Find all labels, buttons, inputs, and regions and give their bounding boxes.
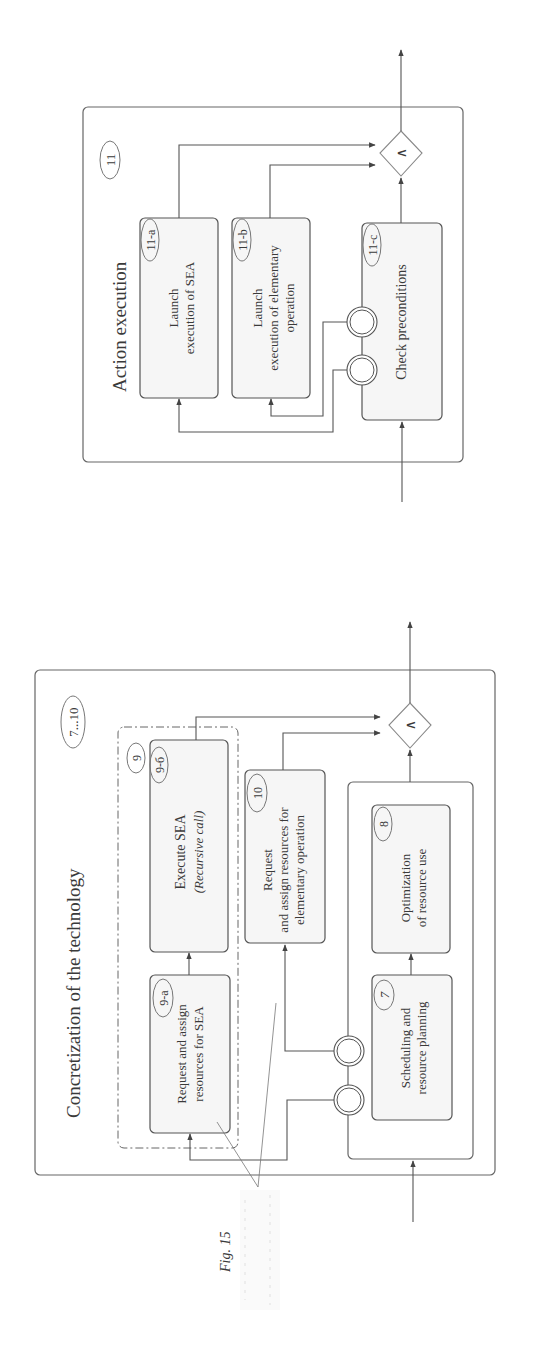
id-badge: 7...10 xyxy=(61,696,85,748)
block-9b[interactable]: 9-б Execute SEA (Recursive call) xyxy=(150,740,228,952)
group-badge: 9 xyxy=(130,755,144,761)
block-id: 7 xyxy=(377,991,392,998)
id-badge: 11 xyxy=(100,141,120,179)
svg-text:resources for SEA: resources for SEA xyxy=(191,1006,206,1102)
concretization-panel: Concretization of the technology 7...10 … xyxy=(35,622,495,1222)
panel-title: Concretization of the technology xyxy=(63,868,84,1118)
svg-text:∧: ∧ xyxy=(394,148,409,158)
flow-arrow xyxy=(270,165,375,218)
block-id: 10 xyxy=(251,787,265,799)
flow-arrow xyxy=(283,733,380,770)
svg-text:operation: operation xyxy=(282,283,297,333)
faint-stamp xyxy=(240,1190,280,1310)
svg-text:∧: ∧ xyxy=(403,720,418,730)
connector-circle xyxy=(347,355,377,385)
svg-text:Request and assign: Request and assign xyxy=(174,1004,189,1104)
block-11a[interactable]: 11-a Launch execution of SEA xyxy=(140,218,218,398)
svg-text:execution of SEA: execution of SEA xyxy=(182,261,197,354)
panel-title: Action execution xyxy=(109,261,130,392)
svg-text:Request: Request xyxy=(260,849,275,891)
svg-text:resource planning: resource planning xyxy=(414,1001,429,1094)
block-11b[interactable]: 11-b Launch execution of elementary oper… xyxy=(232,218,310,398)
svg-text:Scheduling and: Scheduling and xyxy=(398,1007,413,1088)
svg-text:Check preconditions: Check preconditions xyxy=(394,264,409,379)
svg-text:execution of elementary: execution of elementary xyxy=(266,245,281,371)
diagram-canvas: Action execution 11 11-a Launch executio… xyxy=(0,0,544,1345)
figure-caption: Fig. 15 xyxy=(218,1232,233,1273)
block-id: 11-b xyxy=(236,229,250,251)
flow-arrow xyxy=(179,145,375,218)
connector-circle xyxy=(347,307,377,337)
svg-text:Launch: Launch xyxy=(166,288,181,327)
svg-text:elementary operation: elementary operation xyxy=(292,814,307,925)
block-id: 11-a xyxy=(144,229,158,251)
svg-text:Optimization: Optimization xyxy=(398,853,413,922)
svg-text:of resource use: of resource use xyxy=(414,848,429,927)
svg-text:7...10: 7...10 xyxy=(66,707,81,736)
flow-arrow xyxy=(285,945,334,1051)
svg-text:Launch: Launch xyxy=(250,288,265,327)
block-9a[interactable]: 9-a Request and assign resources for SEA xyxy=(150,975,230,1133)
svg-text:(Recursive call): (Recursive call) xyxy=(191,811,206,894)
connector-circle xyxy=(334,1036,364,1066)
connector-circle xyxy=(334,1085,364,1115)
block-id: 8 xyxy=(377,821,391,827)
block-8[interactable]: 8 Optimization of resource use xyxy=(372,805,450,953)
block-id: 11-c xyxy=(366,235,380,256)
svg-text:and assign resources for: and assign resources for xyxy=(276,807,291,933)
flow-arrow xyxy=(196,717,380,740)
block-id: 9-б xyxy=(153,757,167,773)
svg-text:Execute SEA: Execute SEA xyxy=(173,814,188,890)
and-join-diamond: ∧ xyxy=(389,703,431,748)
block-id: 9-a xyxy=(157,990,171,1006)
and-join-diamond: ∧ xyxy=(380,131,422,176)
action-execution-panel: Action execution 11 11-a Launch executio… xyxy=(83,50,463,502)
block-10[interactable]: 10 Request and assign resources for elem… xyxy=(245,770,325,943)
block-7[interactable]: 7 Scheduling and resource planning xyxy=(372,975,452,1120)
svg-text:11: 11 xyxy=(103,154,118,167)
